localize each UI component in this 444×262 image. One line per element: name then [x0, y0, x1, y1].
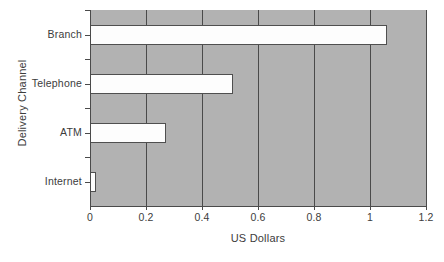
x-tick-mark-0.8	[314, 206, 315, 210]
y-minor-tick-3	[85, 157, 90, 158]
y-minor-tick-2	[85, 108, 90, 109]
x-tick-label-1.2: 1.2	[418, 211, 433, 223]
y-tick-label-atm: ATM	[0, 126, 82, 138]
chart-figure: 00.20.40.60.811.2 BranchTelephoneATMInte…	[0, 0, 444, 262]
y-tick-mark-telephone	[85, 84, 90, 85]
x-tick-mark-0.6	[258, 206, 259, 210]
x-tick-label-0.2: 0.2	[138, 211, 153, 223]
y-tick-mark-atm	[85, 133, 90, 134]
y-tick-mark-internet	[85, 182, 90, 183]
x-tick-mark-1.2	[426, 206, 427, 210]
y-axis-line	[90, 10, 91, 207]
x-tick-label-0.6: 0.6	[250, 211, 265, 223]
y-tick-label-telephone: Telephone	[0, 77, 82, 89]
x-tick-mark-0.4	[202, 206, 203, 210]
x-tick-mark-0.2	[146, 206, 147, 210]
x-axis-title: US Dollars	[90, 232, 426, 244]
x-tick-label-0.8: 0.8	[306, 211, 321, 223]
bar-telephone	[90, 74, 233, 94]
y-minor-tick-0	[85, 10, 90, 11]
y-tick-label-internet: Internet	[0, 175, 82, 187]
x-tick-label-0: 0	[87, 211, 93, 223]
y-axis-title: Delivery Channel	[16, 28, 28, 178]
gridline-x-1.2	[426, 10, 427, 206]
y-tick-label-branch: Branch	[0, 28, 82, 40]
y-tick-mark-branch	[85, 35, 90, 36]
x-tick-label-0.4: 0.4	[194, 211, 209, 223]
x-tick-mark-1	[370, 206, 371, 210]
x-tick-label-1: 1	[367, 211, 373, 223]
bar-atm	[90, 123, 166, 143]
plot-area	[90, 10, 426, 206]
y-minor-tick-1	[85, 59, 90, 60]
bar-branch	[90, 25, 387, 45]
x-tick-mark-0	[90, 206, 91, 210]
